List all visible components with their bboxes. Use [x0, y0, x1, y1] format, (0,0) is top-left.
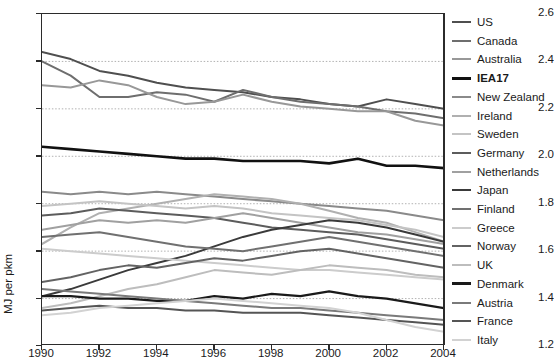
legend-item-austria[interactable]: Austria [452, 294, 513, 312]
series-line-sweden [42, 201, 444, 237]
legend-swatch-icon [452, 171, 471, 173]
legend-item-sweden[interactable]: Sweden [452, 125, 519, 143]
legend-swatch-icon [452, 227, 471, 229]
legend-label: France [477, 315, 513, 327]
x-tick-mark [386, 345, 387, 350]
legend-label: New Zealand [477, 91, 545, 103]
legend-item-australia[interactable]: Australia [452, 50, 522, 68]
legend-swatch-icon [452, 302, 471, 304]
legend-label: Canada [477, 35, 517, 47]
legend-item-uk[interactable]: UK [452, 256, 493, 274]
legend-label: IEA17 [477, 72, 509, 84]
legend-label: US [477, 16, 493, 28]
legend-swatch-icon [452, 152, 471, 154]
legend-swatch-icon [452, 115, 471, 117]
legend-item-denmark[interactable]: Denmark [452, 275, 524, 293]
legend-swatch-icon [452, 189, 471, 191]
x-tick-mark [213, 345, 214, 350]
legend-swatch-icon [452, 282, 471, 285]
legend-item-japan[interactable]: Japan [452, 181, 508, 199]
legend-item-ireland[interactable]: Ireland [452, 107, 512, 125]
series-line-canada [42, 61, 444, 118]
series-line-germany [42, 208, 444, 248]
legend-item-germany[interactable]: Germany [452, 144, 524, 162]
legend-label: UK [477, 259, 493, 271]
x-tick-mark [328, 345, 329, 350]
x-tick-mark [156, 345, 157, 350]
series-line-finland [42, 232, 444, 256]
legend-item-norway[interactable]: Norway [452, 237, 516, 255]
legend-swatch-icon [452, 77, 471, 80]
x-tick-mark [41, 345, 42, 350]
legend-swatch-icon [452, 40, 471, 42]
legend-label: Ireland [477, 110, 512, 122]
x-tick-mark [271, 345, 272, 350]
legend-swatch-icon [452, 208, 471, 210]
legend-item-france[interactable]: France [452, 312, 513, 330]
legend-label: Denmark [477, 278, 524, 290]
legend-swatch-icon [452, 58, 471, 60]
legend-item-greece[interactable]: Greece [452, 219, 515, 237]
series-line-austria [42, 289, 444, 320]
legend-label: Japan [477, 184, 508, 196]
legend-label: Italy [477, 334, 498, 346]
chart-title-strip [0, 0, 554, 12]
legend-item-canada[interactable]: Canada [452, 32, 517, 50]
series-lines [42, 14, 444, 346]
plot-right-border [443, 13, 445, 345]
legend-item-new-zealand[interactable]: New Zealand [452, 88, 545, 106]
legend-swatch-icon [452, 320, 471, 322]
legend-swatch-icon [452, 21, 471, 23]
legend-item-iea17[interactable]: IEA17 [452, 69, 509, 87]
legend-label: Norway [477, 240, 516, 252]
series-line-greece [42, 249, 444, 280]
legend-label: Austria [477, 297, 513, 309]
chart-legend: USCanadaAustraliaIEA17New ZealandIreland… [452, 13, 554, 353]
x-tick-mark [443, 345, 444, 350]
legend-item-italy[interactable]: Italy [452, 331, 498, 349]
series-line-australia [42, 80, 444, 125]
chart-root: 1.21.41.61.82.02.22.42.6 199019921994199… [0, 0, 554, 363]
legend-label: Germany [477, 147, 524, 159]
series-line-iea17 [42, 147, 444, 168]
legend-item-finland[interactable]: Finland [452, 200, 515, 218]
legend-swatch-icon [452, 245, 471, 247]
legend-swatch-icon [452, 133, 471, 135]
legend-label: Australia [477, 53, 522, 65]
legend-item-us[interactable]: US [452, 13, 493, 31]
y-axis-title: MJ per pkm [2, 245, 14, 323]
legend-item-netherlands[interactable]: Netherlands [452, 163, 539, 181]
legend-label: Netherlands [477, 166, 539, 178]
x-tick-mark [98, 345, 99, 350]
legend-label: Sweden [477, 128, 519, 140]
legend-label: Finland [477, 203, 515, 215]
legend-label: Greece [477, 222, 515, 234]
legend-swatch-icon [452, 96, 471, 98]
legend-swatch-icon [452, 264, 471, 266]
plot-area [41, 13, 443, 345]
legend-swatch-icon [452, 339, 471, 341]
